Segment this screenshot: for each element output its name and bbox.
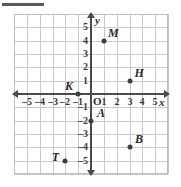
x-tick-label: –2 <box>60 97 70 107</box>
plot-point-label-h: H <box>134 67 143 79</box>
x-axis-arrow-left-icon <box>12 90 18 98</box>
plot-point-label-t: T <box>52 151 59 163</box>
plot-point-label-a: A <box>97 107 105 119</box>
y-tick-label: 5 <box>83 22 88 32</box>
y-tick-label: –1 <box>78 102 88 112</box>
x-axis-label: x <box>159 97 165 108</box>
y-axis-label: y <box>95 15 100 26</box>
plot-point-label-k: K <box>65 80 73 92</box>
plot-point-m <box>101 38 106 43</box>
y-tick-label: –5 <box>78 156 88 166</box>
y-tick-label: –4 <box>78 142 88 152</box>
y-axis-arrow-down-icon <box>87 170 95 176</box>
x-tick-label: –3 <box>48 97 58 107</box>
y-tick-label: –2 <box>78 116 88 126</box>
x-tick-label: –5 <box>22 97 32 107</box>
plot-point-label-b: B <box>135 133 143 145</box>
x-tick-label: 4 <box>140 97 145 107</box>
coordinate-plane-plot-area: –5–4–3–2–112345 54321–1–2–3–4–5 O x y MH… <box>14 14 168 174</box>
y-tick-label: 3 <box>83 49 88 59</box>
y-axis-arrow-up-icon <box>87 12 95 18</box>
plot-point-a <box>89 118 94 123</box>
plot-point-k <box>76 92 81 97</box>
y-tick-label: 1 <box>83 76 88 86</box>
x-tick-label: 5 <box>153 97 158 107</box>
y-axis <box>90 14 92 174</box>
coordinate-plane-figure: –5–4–3–2–112345 54321–1–2–3–4–5 O x y MH… <box>0 0 181 187</box>
corner-rule-decoration <box>2 3 44 6</box>
y-tick-label: 2 <box>83 62 88 72</box>
y-tick-label: 4 <box>83 36 88 46</box>
x-tick-label: –4 <box>35 97 45 107</box>
x-tick-label: 2 <box>115 97 120 107</box>
plot-point-t <box>63 158 68 163</box>
y-tick-label: –3 <box>78 129 88 139</box>
x-tick-label: 3 <box>128 97 133 107</box>
plot-point-h <box>127 78 132 83</box>
plot-point-b <box>127 145 132 150</box>
plot-point-label-m: M <box>108 27 119 39</box>
